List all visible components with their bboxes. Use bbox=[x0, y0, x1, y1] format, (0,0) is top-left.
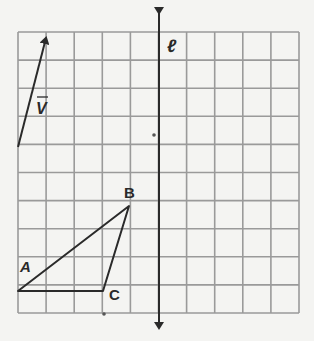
vector-label-v: V bbox=[36, 100, 48, 117]
transformation-diagram: ℓ V A B C bbox=[0, 0, 314, 341]
translation-vector-v bbox=[18, 38, 46, 147]
vertex-label-a: A bbox=[19, 258, 31, 275]
vertex-label-c: C bbox=[109, 286, 120, 303]
dot bbox=[102, 312, 106, 316]
line-label-l: ℓ bbox=[167, 36, 177, 56]
dot bbox=[152, 133, 156, 137]
vertex-label-b: B bbox=[124, 184, 135, 201]
